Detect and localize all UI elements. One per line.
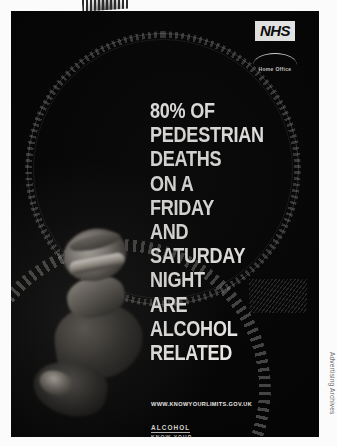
campaign-url[interactable]: WWW.KNOWYOURLIMITS.GOV.UK [151,401,252,407]
poster-artwork: NHS Home Office 80% OF PEDESTRIAN DEATHS… [11,11,319,437]
headline-line: PEDESTRIAN [150,123,281,147]
home-office-arc-icon [253,53,297,65]
headline-line: FRIDAY [150,196,281,220]
logo-group: NHS Home Office [243,21,307,72]
headline: 80% OF PEDESTRIAN DEATHS ON A FRIDAY AND… [150,99,310,365]
headline-line: NIGHT [150,268,281,292]
image-credit: Advertising Archives [329,352,336,415]
headline-line: ALCOHOL [150,317,281,341]
headline-line: RELATED [150,341,281,365]
home-office-label: Home Office [243,66,307,72]
scanned-page-background: NHS Home Office 80% OF PEDESTRIAN DEATHS… [0,0,337,446]
headline-line: 80% OF [150,99,281,123]
victim-photograph [29,221,161,421]
headline-line: ARE [150,293,281,317]
headline-line: AND [150,220,281,244]
alcohol-know-your-limits-logo: ALCOHOL KNOW YOUR LiMiTS [151,417,192,437]
headline-line: DEATHS [150,147,281,171]
tyre-tread-bleed-icon [81,0,128,12]
headline-line: ON A [150,172,281,196]
home-office-logo: Home Office [243,53,307,72]
headline-line: SATURDAY [150,244,281,268]
lockup-line-know-your: KNOW YOUR [151,435,192,438]
nhs-logo: NHS [255,21,295,41]
lockup-line-alcohol: ALCOHOL [151,425,190,433]
